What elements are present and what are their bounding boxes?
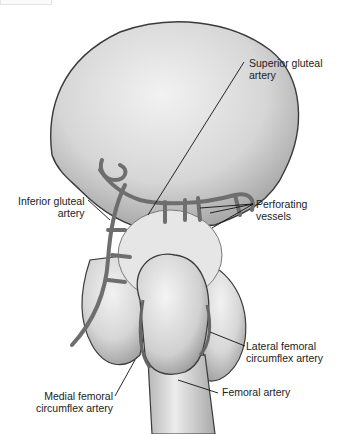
label-femoral-artery: Femoral artery [222,386,290,398]
label-inferior-gluteal-artery: Inferior gluteal artery [18,195,85,219]
label-lateral-femoral-circumflex-artery: Lateral femoral circumflex artery [246,340,323,364]
label-perforating-vessels: Perforating vessels [256,198,307,222]
label-superior-gluteal-artery: Superior gluteal artery [249,57,323,81]
label-medial-femoral-circumflex-artery: Medial femoral circumflex artery [36,390,113,414]
femoral-head [137,254,208,374]
